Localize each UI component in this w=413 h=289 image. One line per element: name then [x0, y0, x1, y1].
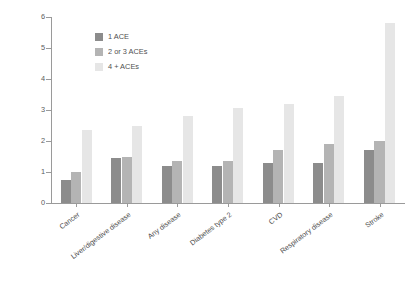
x-tick-mark — [177, 203, 178, 207]
bar — [263, 163, 273, 203]
legend-item: 1 ACE — [95, 29, 215, 44]
legend-label: 4 + ACEs — [108, 62, 139, 71]
legend-swatch-icon — [95, 48, 103, 56]
bar — [61, 180, 71, 203]
x-tick-mark — [329, 203, 330, 207]
bar-group — [263, 17, 295, 203]
legend-item: 2 or 3 ACEs — [95, 44, 215, 59]
bar — [385, 23, 395, 203]
bar — [183, 116, 193, 203]
y-tick-label: 4 — [21, 75, 45, 83]
x-tick-mark — [127, 203, 128, 207]
bar — [111, 158, 121, 203]
bar-group — [61, 17, 93, 203]
bar — [324, 144, 334, 203]
legend-label: 1 ACE — [108, 32, 129, 41]
bar — [233, 108, 243, 203]
y-tick-label: 6 — [21, 13, 45, 21]
bar — [334, 96, 344, 203]
legend-item: 4 + ACEs — [95, 59, 215, 74]
y-tick-label: 5 — [21, 44, 45, 52]
bar — [212, 166, 222, 203]
bar — [374, 141, 384, 203]
bar — [364, 150, 374, 203]
chart-legend: 1 ACE2 or 3 ACEs4 + ACEs — [95, 29, 215, 74]
bar — [284, 104, 294, 203]
x-tick-mark — [380, 203, 381, 207]
bar — [172, 161, 182, 203]
x-tick-mark — [279, 203, 280, 207]
x-tick-mark — [76, 203, 77, 207]
y-tick-label: 3 — [21, 106, 45, 114]
bar-group — [212, 17, 244, 203]
x-axis-label: Cancer — [0, 210, 82, 275]
bar-chart: Adjusted Hazard Ratio 0123456 CancerLive… — [0, 0, 413, 289]
bar — [273, 150, 283, 203]
legend-swatch-icon — [95, 63, 103, 71]
bar — [162, 166, 172, 203]
bar — [313, 163, 323, 203]
bar — [122, 157, 132, 204]
legend-label: 2 or 3 ACEs — [108, 47, 147, 56]
x-tick-mark — [228, 203, 229, 207]
bar — [132, 126, 142, 204]
bar-group — [364, 17, 396, 203]
bar — [223, 161, 233, 203]
legend-swatch-icon — [95, 33, 103, 41]
bar — [82, 130, 92, 203]
y-tick-label: 0 — [21, 199, 45, 207]
bar-group — [313, 17, 345, 203]
bar — [71, 172, 81, 203]
y-tick-mark — [46, 203, 51, 204]
y-tick-label: 2 — [21, 137, 45, 145]
y-tick-label: 1 — [21, 168, 45, 176]
